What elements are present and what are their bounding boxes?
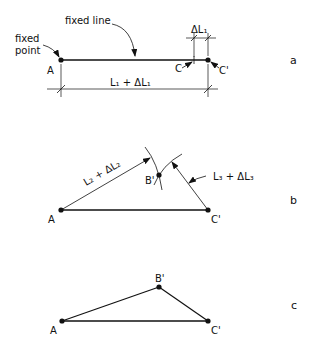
arc-from-a-label: L₂ + ΔL₂ (82, 158, 123, 188)
panel-b-label: b (290, 194, 297, 207)
point-a-marker (59, 318, 64, 323)
point-b-prime-marker (156, 284, 161, 289)
panel-c: A B' C' c (50, 273, 297, 336)
point-b-prime-label: B' (145, 175, 155, 186)
c-prime-leader-arrow (211, 62, 219, 68)
fixed-point-label-line2: point (15, 45, 41, 56)
point-c-prime-label: C' (211, 325, 221, 336)
dimension-delta-label: ΔL₁ (191, 24, 207, 35)
panel-c-label: c (291, 299, 297, 312)
point-c-label: C (175, 63, 182, 74)
fixed-line-label: fixed line (65, 15, 111, 26)
dimension-total-label: L₁ + ΔL₁ (110, 77, 151, 88)
point-c-prime-label: C' (211, 214, 221, 225)
point-a-label: A (48, 214, 55, 225)
point-c-prime-marker (205, 57, 210, 62)
radius-arrow-from-c-prime (172, 162, 208, 210)
point-c-prime-label: C' (219, 65, 229, 76)
l3-leader-arrow (189, 176, 206, 183)
point-a-label: A (47, 65, 54, 76)
point-a-label: A (50, 325, 57, 336)
side-a-b-prime (62, 287, 159, 321)
side-b-prime-c-prime (159, 287, 208, 321)
panel-b: L₂ + ΔL₂ L₃ + ΔL₃ A B' C' b (48, 147, 297, 225)
arc-from-c-prime-label: L₃ + ΔL₃ (213, 171, 254, 182)
fixed-point-label-line1: fixed (15, 33, 39, 44)
point-b-prime-label: B' (155, 273, 165, 284)
triangulation-diagram: fixed line fixed point A C C' L₁ + ΔL₁ Δ… (0, 0, 315, 343)
panel-a: fixed line fixed point A C C' L₁ + ΔL₁ Δ… (15, 15, 297, 97)
point-a-marker (58, 57, 63, 62)
c-leader-arrow (182, 62, 192, 68)
fixed-point-leader-arrow (43, 45, 59, 57)
panel-a-label: a (290, 54, 297, 67)
fixed-line-leader-arrow (112, 24, 135, 56)
point-c-prime-marker (205, 318, 210, 323)
